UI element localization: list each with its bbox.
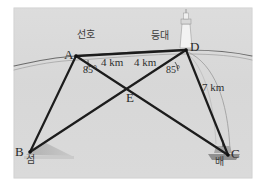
lighthouse-top — [184, 13, 189, 19]
lighthouse-lamp — [181, 19, 191, 24]
boat-icon — [208, 154, 240, 160]
figure-canvas — [0, 0, 264, 191]
vertex-c — [226, 153, 230, 157]
vertex-d — [184, 48, 188, 52]
lighthouse-icon — [180, 24, 192, 48]
geometry-figure: 선호 등대 섬 배 A D B C E 4 km 4 km 7 km 85° 8… — [0, 0, 264, 191]
island-shore — [24, 156, 74, 159]
vertex-a — [74, 54, 78, 58]
vertex-b — [28, 150, 32, 154]
